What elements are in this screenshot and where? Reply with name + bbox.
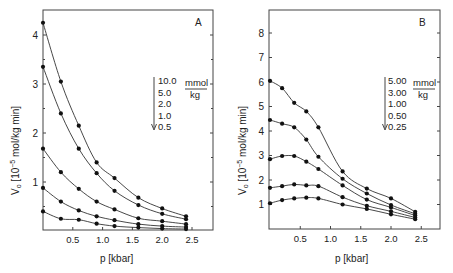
- data-point: [112, 189, 116, 193]
- panel-b-ylabel: Vo [10−5 mol/kg min]: [236, 106, 249, 195]
- y-tick-label: 2: [32, 128, 38, 139]
- data-point: [184, 227, 188, 231]
- y-tick-label: 7: [258, 52, 264, 63]
- y-tick-label: 1: [32, 177, 38, 188]
- data-point: [136, 203, 140, 207]
- legend-entry: 2.0: [158, 98, 171, 109]
- panel-b-xlabel: p [kbar]: [335, 253, 369, 264]
- data-point: [341, 195, 345, 199]
- data-point: [59, 79, 63, 83]
- data-point: [268, 79, 272, 83]
- data-point: [112, 224, 116, 228]
- data-point: [316, 167, 320, 171]
- legend-entry: 0.25: [388, 121, 407, 132]
- panel-a-frame: [43, 10, 213, 230]
- data-point: [41, 65, 45, 69]
- data-point: [268, 118, 272, 122]
- y-tick-label: 8: [258, 28, 264, 39]
- legend-entry: 0.50: [388, 110, 407, 121]
- data-point: [95, 160, 99, 164]
- data-point: [160, 212, 164, 216]
- data-point: [341, 169, 345, 173]
- ylabel-tail: mol/kg min]: [10, 106, 21, 160]
- data-point: [59, 170, 63, 174]
- ylabel-text: [10: [10, 167, 21, 184]
- data-point: [304, 183, 308, 187]
- data-point: [280, 122, 284, 126]
- x-tick-label: 1.5: [354, 233, 367, 244]
- x-tick-label: 2.5: [415, 233, 428, 244]
- y-tick-label: 4: [258, 126, 264, 137]
- legend-entry: 3.00: [388, 87, 407, 98]
- data-point: [304, 196, 308, 200]
- data-point: [304, 137, 308, 141]
- panel-a-xlabel: p [kbar]: [100, 253, 134, 264]
- legend-entry: 1.00: [388, 98, 407, 109]
- y-tick-label: 3: [32, 79, 38, 90]
- x-tick-label: 1.0: [324, 233, 337, 244]
- y-tick-label: 5: [258, 101, 264, 112]
- data-point: [292, 182, 296, 186]
- data-point: [41, 147, 45, 151]
- data-point: [160, 206, 164, 210]
- panel-b-ticks: 0.51.01.52.02.512345678: [258, 28, 440, 245]
- data-point: [316, 155, 320, 159]
- data-point: [59, 200, 63, 204]
- data-point: [280, 184, 284, 188]
- data-point: [389, 196, 393, 200]
- ylabel-tail: mol/kg min]: [237, 106, 248, 160]
- data-point: [136, 225, 140, 229]
- legend-unit-bottom: kg: [418, 89, 428, 100]
- x-tick-label: 2.0: [384, 233, 397, 244]
- data-point: [136, 216, 140, 220]
- data-point: [77, 187, 81, 191]
- data-point: [268, 201, 272, 205]
- data-point: [316, 125, 320, 129]
- x-tick-label: 2.0: [156, 234, 169, 245]
- legend-entry: 5.00: [388, 75, 407, 86]
- data-point: [316, 184, 320, 188]
- data-point: [341, 177, 345, 181]
- two-panel-chart: A 0.51.01.52.02.51234 p [kbar] Vo [10−5 …: [0, 0, 453, 273]
- panel-a-label: A: [195, 17, 202, 28]
- data-point: [365, 207, 369, 211]
- data-point: [268, 186, 272, 190]
- legend-entry: 1.0: [158, 110, 171, 121]
- data-point: [77, 124, 81, 128]
- svg-text:Vo [10−5 mol/kg min]: Vo [10−5 mol/kg min]: [236, 106, 249, 195]
- panel-b-label: B: [419, 17, 426, 28]
- x-tick-label: 0.5: [294, 233, 307, 244]
- legend-entry: 0.5: [158, 121, 171, 132]
- data-point: [292, 154, 296, 158]
- data-point: [184, 217, 188, 221]
- data-point: [341, 183, 345, 187]
- data-point: [365, 198, 369, 202]
- data-point: [292, 196, 296, 200]
- data-point: [160, 226, 164, 230]
- x-tick-label: 2.5: [185, 234, 198, 245]
- legend-unit-bottom: kg: [190, 89, 200, 100]
- data-point: [389, 205, 393, 209]
- data-point: [280, 154, 284, 158]
- data-point: [292, 101, 296, 105]
- series-curve: [270, 184, 415, 217]
- panel-a-legend: 10.05.02.01.00.5 mmol kg: [152, 75, 209, 132]
- legend-entry: 10.0: [158, 75, 177, 86]
- x-tick-label: 1.0: [96, 234, 109, 245]
- data-point: [341, 202, 345, 206]
- data-point: [77, 218, 81, 222]
- data-point: [316, 196, 320, 200]
- ylabel-exponent: −5: [9, 160, 16, 168]
- data-point: [304, 109, 308, 113]
- data-point: [112, 176, 116, 180]
- data-point: [365, 191, 369, 195]
- series-curve: [43, 149, 186, 224]
- data-point: [292, 125, 296, 129]
- data-point: [59, 217, 63, 221]
- ylabel-exponent: −5: [236, 160, 243, 168]
- svg-text:Vo [10−5 mol/kg min]: Vo [10−5 mol/kg min]: [9, 106, 22, 195]
- data-point: [59, 111, 63, 115]
- data-point: [365, 186, 369, 190]
- panel-b-legend: 5.003.001.000.500.25 mmol kg: [383, 75, 437, 132]
- legend-unit-top: mmol: [413, 77, 436, 88]
